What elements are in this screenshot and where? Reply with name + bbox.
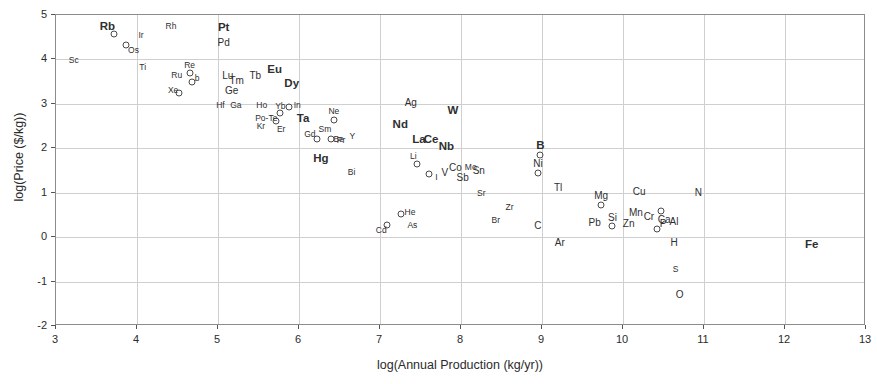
x-axis-tick bbox=[136, 325, 137, 329]
data-point-label: Os bbox=[128, 46, 139, 55]
gridline-horizontal bbox=[56, 104, 864, 105]
data-point-marker bbox=[398, 211, 405, 218]
data-point-label: Ge bbox=[225, 86, 238, 96]
data-point-label: Y bbox=[350, 132, 356, 141]
x-axis-tick-label: 13 bbox=[859, 333, 871, 345]
y-axis-tick bbox=[51, 325, 55, 326]
y-axis-tick-label: 2 bbox=[25, 141, 47, 153]
y-axis-tick-label: 3 bbox=[25, 97, 47, 109]
data-point-marker bbox=[426, 171, 433, 178]
data-point-label: Ar bbox=[555, 238, 565, 248]
data-point-label: Mn bbox=[629, 208, 643, 218]
data-point-label: Ga bbox=[230, 101, 241, 110]
data-point-label: B bbox=[536, 140, 544, 152]
chart-root: ScRbOsIrRhTiRuRebXePtPdLuTmGeTbEuHfGaDyH… bbox=[0, 0, 877, 384]
gridline-vertical bbox=[137, 15, 138, 324]
x-axis-tick bbox=[217, 325, 218, 329]
x-axis-tick bbox=[55, 325, 56, 329]
x-axis-tick bbox=[541, 325, 542, 329]
gridline-vertical bbox=[704, 15, 705, 324]
data-point-marker bbox=[534, 169, 541, 176]
data-point-label: Hg bbox=[313, 153, 328, 165]
data-point-label: Kr bbox=[257, 122, 266, 131]
data-point-label: Ag bbox=[405, 98, 417, 108]
data-point-label: Cd bbox=[376, 225, 387, 234]
x-axis-tick bbox=[298, 325, 299, 329]
data-point-label: Br bbox=[492, 216, 501, 225]
data-point-label: Fe bbox=[805, 239, 818, 251]
plot-area: ScRbOsIrRhTiRuRebXePtPdLuTmGeTbEuHfGaDyH… bbox=[55, 14, 865, 325]
data-point-label: S bbox=[673, 265, 679, 274]
x-axis-tick bbox=[703, 325, 704, 329]
gridline-horizontal bbox=[56, 148, 864, 149]
y-axis-tick bbox=[51, 192, 55, 193]
y-axis-tick bbox=[51, 58, 55, 59]
data-point-marker bbox=[330, 116, 337, 123]
data-point-label: Cu bbox=[633, 187, 646, 197]
data-point-label: Tb bbox=[249, 71, 261, 81]
x-axis-tick bbox=[379, 325, 380, 329]
data-point-label: Rh bbox=[166, 22, 177, 31]
data-point-label: Ce bbox=[424, 135, 439, 147]
data-point-label: Xe bbox=[168, 86, 178, 95]
data-point-label: In bbox=[294, 100, 301, 109]
x-axis-tick-label: 5 bbox=[214, 333, 220, 345]
gridline-vertical bbox=[380, 15, 381, 324]
data-point-label: Ni bbox=[533, 159, 542, 169]
data-point-label: Sn bbox=[473, 166, 485, 176]
data-point-label: C bbox=[534, 221, 541, 231]
data-point-label: Dy bbox=[284, 78, 299, 90]
data-point-label: Sr bbox=[477, 188, 486, 197]
data-point-label: H bbox=[670, 238, 677, 248]
y-axis-tick-label: -1 bbox=[25, 275, 47, 287]
data-point-label: Ir bbox=[138, 30, 143, 39]
data-point-label: Tl bbox=[554, 183, 562, 193]
data-point-label: Al bbox=[670, 217, 679, 227]
y-axis-tick bbox=[51, 103, 55, 104]
gridline-horizontal bbox=[56, 193, 864, 194]
y-axis-tick bbox=[51, 147, 55, 148]
x-axis-tick-label: 6 bbox=[295, 333, 301, 345]
gridline-vertical bbox=[623, 15, 624, 324]
data-point-label: Nd bbox=[393, 119, 408, 131]
data-point-label: Pb bbox=[589, 218, 601, 228]
data-point-marker bbox=[598, 202, 605, 209]
data-point-label: He bbox=[405, 208, 416, 217]
data-point-label: P bbox=[660, 219, 667, 229]
x-axis-tick-label: 11 bbox=[697, 333, 708, 345]
data-point-label: I bbox=[435, 173, 437, 182]
x-axis-tick-label: 9 bbox=[538, 333, 544, 345]
y-axis-tick bbox=[51, 281, 55, 282]
data-point-label: Cr bbox=[644, 212, 655, 222]
y-axis-tick bbox=[51, 236, 55, 237]
data-point-label: Ho bbox=[256, 100, 267, 109]
data-point-label: Sc bbox=[69, 56, 79, 65]
data-point-label: Pt bbox=[218, 22, 230, 34]
x-axis-tick bbox=[622, 325, 623, 329]
x-axis-tick-label: 12 bbox=[778, 333, 790, 345]
gridline-vertical bbox=[542, 15, 543, 324]
y-axis-tick-label: 5 bbox=[25, 8, 47, 20]
data-point-label: As bbox=[407, 221, 417, 230]
x-axis-tick bbox=[865, 325, 866, 329]
x-axis-tick bbox=[784, 325, 785, 329]
y-axis-tick-label: 1 bbox=[25, 186, 47, 198]
data-point-marker bbox=[186, 69, 193, 76]
data-point-label: Zr bbox=[506, 203, 514, 212]
data-point-label: Yb bbox=[275, 101, 285, 110]
data-point-label: b bbox=[195, 73, 200, 82]
y-axis-tick-label: 4 bbox=[25, 52, 47, 64]
x-axis-tick-label: 3 bbox=[52, 333, 58, 345]
data-point-label: Ru bbox=[171, 70, 182, 79]
data-point-label: Pr bbox=[337, 136, 346, 145]
gridline-vertical bbox=[218, 15, 219, 324]
y-axis-tick-label: -2 bbox=[25, 319, 47, 331]
x-axis-tick-label: 8 bbox=[457, 333, 463, 345]
data-point-label: N bbox=[695, 188, 702, 198]
x-axis-tick bbox=[460, 325, 461, 329]
data-point-label: Sb bbox=[456, 173, 468, 183]
y-axis-title: log(Price ($/kg)) bbox=[12, 72, 26, 242]
data-point-label: Eu bbox=[267, 64, 282, 76]
gridline-horizontal bbox=[56, 237, 864, 238]
data-point-label: W bbox=[447, 105, 458, 117]
